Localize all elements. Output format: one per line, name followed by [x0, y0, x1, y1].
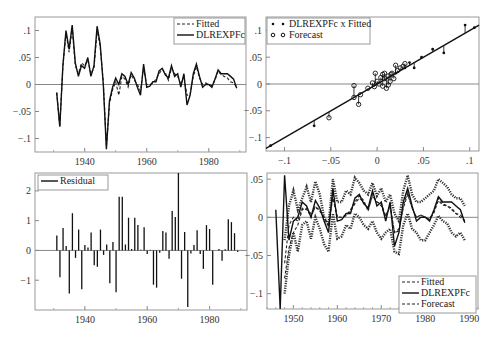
x-tick-label: 1960	[327, 313, 347, 324]
y-tick-label: −.05	[244, 105, 262, 116]
y-tick-label: −.1	[249, 132, 262, 143]
y-tick-label: −.05	[245, 250, 263, 261]
x-tick-label: 1990	[459, 313, 479, 324]
x-tick-label: 1980	[200, 314, 220, 325]
x-tick-label: −.05	[322, 155, 340, 166]
fitted-line	[285, 192, 465, 278]
panel-forecast: −.1−.050.0519501960197019801990FittedDLR…	[245, 173, 479, 324]
y-tick-label: 0	[26, 79, 31, 90]
plot-frame	[35, 173, 247, 310]
y-tick-label: −.05	[13, 106, 31, 117]
data-dot	[269, 144, 272, 147]
data-dot	[413, 67, 416, 70]
x-tick-label: .1	[466, 155, 474, 166]
legend-label: Forecast	[289, 29, 323, 40]
x-tick-label: 1960	[137, 314, 157, 325]
legend-label: DLREXPFc	[421, 287, 470, 298]
legend-label: Residual	[60, 175, 95, 186]
x-tick-label: −.1	[278, 155, 291, 166]
y-tick-label: 2	[26, 185, 31, 196]
x-tick-label: 1960	[137, 156, 157, 167]
data-dot	[473, 26, 476, 29]
y-tick-label: −1	[20, 275, 31, 286]
y-tick-label: −.1	[250, 288, 263, 299]
data-dot	[442, 52, 445, 55]
data-dot	[464, 24, 467, 27]
data-dot	[408, 61, 411, 64]
x-tick-label: 0	[375, 155, 380, 166]
legend-label: Fitted	[421, 276, 444, 287]
y-tick-label: .1	[255, 25, 263, 36]
x-tick-label: 1980	[199, 156, 219, 167]
legend-label: DLREXPFc	[196, 29, 245, 40]
y-tick-label: 0	[258, 212, 263, 223]
y-tick-label: 0	[257, 79, 262, 90]
y-tick-label: .05	[251, 174, 264, 185]
legend-label: Fitted	[196, 18, 219, 29]
legend-dot-icon	[282, 23, 285, 26]
x-tick-label: 1980	[415, 313, 435, 324]
x-tick-label: 1940	[75, 156, 95, 167]
figure-canvas: −.1−.050.05.1194019601980FittedDLREXPFc …	[0, 0, 499, 337]
y-tick-label: −.1	[18, 133, 31, 144]
legend-label: DLREXPFc x Fitted	[289, 18, 371, 29]
panel-actual-fitted: −.1−.050.05.1194019601980FittedDLREXPFc	[13, 17, 246, 167]
legend-label: Forecast	[421, 298, 455, 309]
x-tick-label: 1950	[283, 313, 303, 324]
x-tick-label: 1970	[371, 313, 391, 324]
y-tick-label: 1	[26, 215, 31, 226]
data-dot	[420, 56, 423, 59]
y-tick-label: .1	[24, 25, 32, 36]
data-dot	[313, 124, 316, 127]
panel-residuals: −1012194019601980Residual	[20, 173, 247, 325]
panel-cross-plot: −.1−.050.05.1−.1−.050.05.1DLREXPFc x Fit…	[244, 17, 479, 166]
forecast-upper-band-line	[285, 175, 465, 240]
x-tick-label: .05	[417, 155, 430, 166]
x-tick-label: 1940	[75, 314, 95, 325]
data-dot	[431, 48, 434, 51]
y-tick-label: .05	[19, 52, 32, 63]
legend-dot-icon	[272, 23, 275, 26]
y-tick-label: 0	[26, 245, 31, 256]
y-tick-label: .05	[250, 52, 263, 63]
